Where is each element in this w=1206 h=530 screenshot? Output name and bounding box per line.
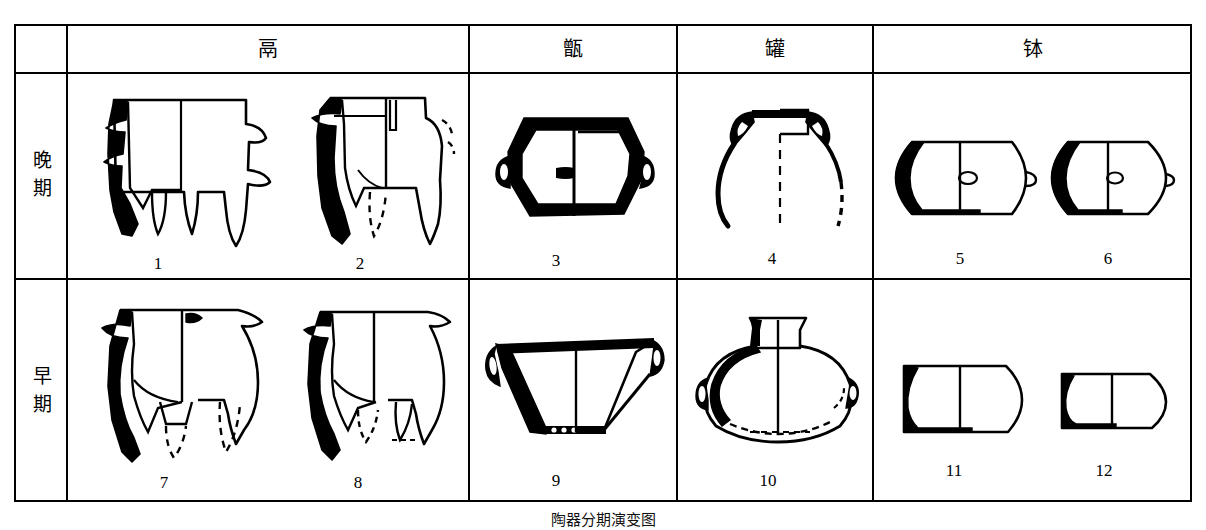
artifact-label-1: 1	[138, 255, 178, 272]
artifact-drawing-3	[494, 108, 654, 238]
artifact-drawing-7	[86, 296, 276, 466]
artifact-label-8: 8	[338, 474, 378, 491]
artifact-label-9: 9	[536, 472, 576, 489]
cell-early-li: 7 8	[68, 280, 468, 502]
cell-late-li: 1	[68, 72, 468, 278]
cell-late-bo: 5 6	[874, 72, 1192, 278]
artifact-drawing-5	[890, 134, 1030, 222]
artifact-label-3: 3	[536, 252, 576, 269]
artifact-drawing-6	[1044, 134, 1174, 222]
cell-early-guan: 10	[678, 280, 872, 502]
row-header-early: 早 期	[16, 280, 68, 502]
artifact-label-4: 4	[752, 250, 792, 267]
table-corner-cell	[16, 26, 66, 72]
artifact-drawing-10	[694, 308, 859, 448]
artifact-drawing-8	[284, 298, 464, 466]
artifact-label-6: 6	[1088, 250, 1128, 267]
artifact-drawing-9	[484, 328, 664, 448]
artifact-drawing-4	[710, 102, 850, 237]
artifact-label-12: 12	[1084, 462, 1124, 479]
cell-late-guan: 4	[678, 72, 872, 278]
cell-early-zeng: 9	[470, 280, 676, 502]
cell-late-zeng: 3	[470, 72, 676, 278]
cell-early-bo: 11 12	[874, 280, 1192, 502]
row-header-early-char-1: 早	[33, 363, 52, 391]
row-header-early-char-2: 期	[33, 391, 52, 419]
figure-caption: 陶器分期演变图	[0, 508, 1206, 530]
row-header-late-char-2: 期	[33, 175, 52, 203]
artifact-drawing-11	[890, 358, 1030, 440]
column-header-li: 鬲	[68, 26, 468, 72]
artifact-drawing-1	[86, 84, 276, 252]
column-header-bo: 钵	[874, 26, 1192, 72]
artifact-label-5: 5	[940, 250, 980, 267]
artifact-drawing-2	[290, 84, 465, 252]
artifact-label-7: 7	[144, 474, 184, 491]
typology-table: 鬲 甑 罐 钵 晚 期 早 期	[14, 24, 1192, 502]
artifact-label-2: 2	[340, 255, 380, 272]
artifact-drawing-12	[1050, 366, 1174, 436]
column-header-zeng: 甑	[470, 26, 676, 72]
column-header-guan: 罐	[678, 26, 872, 72]
row-header-late-char-1: 晚	[33, 147, 52, 175]
artifact-label-11: 11	[934, 462, 974, 479]
figure-page: 鬲 甑 罐 钵 晚 期 早 期	[0, 0, 1206, 530]
row-header-late: 晚 期	[16, 72, 68, 278]
artifact-label-10: 10	[748, 472, 788, 489]
